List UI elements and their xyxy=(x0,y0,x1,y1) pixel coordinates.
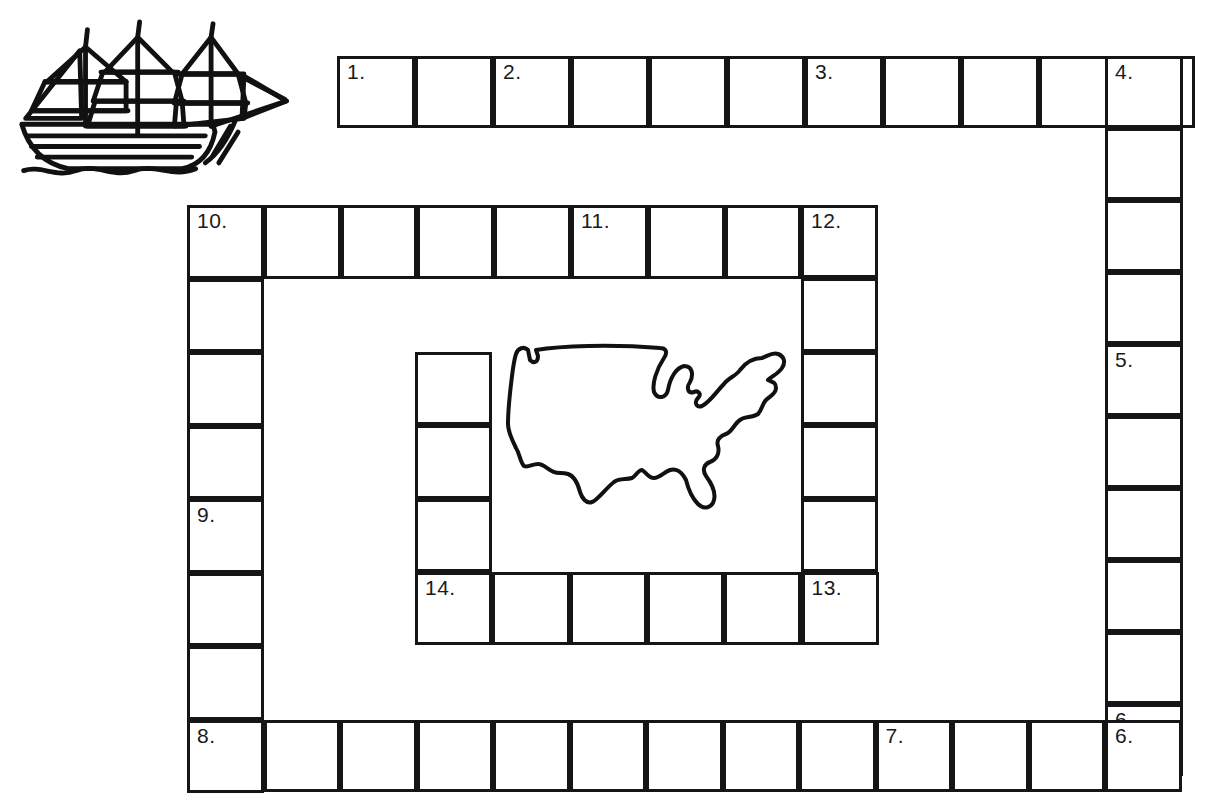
crossword-cell[interactable] xyxy=(646,720,723,792)
crossword-cell[interactable] xyxy=(492,572,569,645)
united-states-map-svg xyxy=(500,336,800,512)
crossword-cell[interactable]: 1. xyxy=(337,56,415,128)
crossword-cell[interactable] xyxy=(801,499,878,572)
crossword-cell[interactable] xyxy=(570,720,647,792)
crossword-cell[interactable] xyxy=(415,425,492,498)
clue-number: 12. xyxy=(811,210,842,231)
clue-number: 10. xyxy=(197,210,228,231)
crossword-cell[interactable]: 11. xyxy=(571,205,648,279)
crossword-cell[interactable] xyxy=(725,205,802,279)
crossword-cell[interactable]: 4. xyxy=(1105,56,1183,128)
crossword-cell[interactable] xyxy=(187,646,264,720)
crossword-cell[interactable] xyxy=(187,573,264,647)
crossword-cell[interactable] xyxy=(571,56,649,128)
clue-number: 13. xyxy=(812,577,843,598)
crossword-cell[interactable] xyxy=(961,56,1039,128)
crossword-cell[interactable] xyxy=(1029,720,1106,792)
crossword-cell[interactable] xyxy=(187,352,264,426)
crossword-cell[interactable] xyxy=(724,572,801,645)
crossword-cell[interactable] xyxy=(1105,632,1183,704)
clue-number: 14. xyxy=(425,577,456,598)
crossword-cell[interactable] xyxy=(494,205,571,279)
sailing-ship-illustration xyxy=(12,18,302,188)
clue-number: 3. xyxy=(815,61,834,82)
crossword-cell[interactable]: 8. xyxy=(187,720,264,794)
clue-number: 2. xyxy=(503,61,522,82)
crossword-cell[interactable] xyxy=(1105,560,1183,632)
crossword-cell[interactable] xyxy=(1105,416,1183,488)
crossword-cell[interactable] xyxy=(952,720,1029,792)
crossword-cell[interactable] xyxy=(647,572,724,645)
crossword-cell[interactable] xyxy=(187,279,264,353)
crossword-cell[interactable] xyxy=(493,720,570,792)
crossword-cell[interactable] xyxy=(1105,128,1183,200)
clue-number: 7. xyxy=(886,725,905,746)
clue-number: 1. xyxy=(347,61,366,82)
clue-number: 6. xyxy=(1115,725,1134,746)
crossword-cell[interactable] xyxy=(727,56,805,128)
sailing-ship-svg xyxy=(12,18,302,188)
clue-number: 4. xyxy=(1115,61,1134,82)
crossword-cell[interactable] xyxy=(341,205,418,279)
clue-number: 8. xyxy=(197,725,216,746)
clue-number: 9. xyxy=(197,504,216,525)
crossword-cell[interactable] xyxy=(648,205,725,279)
crossword-cell[interactable] xyxy=(801,425,878,498)
worksheet-page: 1.2.3.4.4.5.6.8.7.6.10.9.8.10.11.12.12.1… xyxy=(0,0,1206,804)
crossword-cell[interactable]: 13. xyxy=(802,572,879,645)
crossword-cell[interactable] xyxy=(264,205,341,279)
crossword-cell[interactable]: 10. xyxy=(187,205,264,279)
crossword-cell[interactable] xyxy=(1105,200,1183,272)
crossword-cell[interactable] xyxy=(187,426,264,500)
crossword-cell[interactable] xyxy=(649,56,727,128)
crossword-cell[interactable]: 7. xyxy=(876,720,953,792)
crossword-cell[interactable] xyxy=(1105,488,1183,560)
crossword-cell[interactable] xyxy=(415,352,492,425)
crossword-cell[interactable] xyxy=(801,352,878,425)
crossword-cell[interactable]: 12. xyxy=(801,205,878,278)
crossword-cell[interactable]: 6. xyxy=(1105,720,1182,792)
crossword-cell[interactable] xyxy=(415,499,492,572)
crossword-cell[interactable]: 5. xyxy=(1105,344,1183,416)
crossword-cell[interactable] xyxy=(417,205,494,279)
crossword-cell[interactable] xyxy=(1105,272,1183,344)
crossword-cell[interactable]: 3. xyxy=(805,56,883,128)
crossword-cell[interactable]: 9. xyxy=(187,499,264,573)
united-states-map-outline xyxy=(500,336,800,512)
crossword-cell[interactable] xyxy=(801,278,878,351)
clue-number: 5. xyxy=(1115,349,1134,370)
crossword-cell[interactable] xyxy=(417,720,494,792)
crossword-cell[interactable] xyxy=(883,56,961,128)
clue-number: 11. xyxy=(581,210,610,231)
crossword-cell[interactable] xyxy=(340,720,417,792)
crossword-cell[interactable] xyxy=(723,720,800,792)
crossword-cell[interactable]: 2. xyxy=(493,56,571,128)
crossword-cell[interactable] xyxy=(570,572,647,645)
crossword-cell[interactable] xyxy=(799,720,876,792)
crossword-cell[interactable]: 14. xyxy=(415,572,492,645)
crossword-cell[interactable] xyxy=(264,720,341,792)
crossword-cell[interactable] xyxy=(415,56,493,128)
